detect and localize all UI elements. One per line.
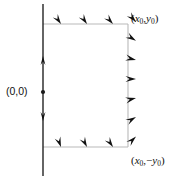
- label-top-right-corner: (x0,y0): [131, 13, 158, 24]
- paren-close: ): [155, 12, 159, 24]
- x-subscript: 0: [140, 159, 144, 168]
- label-origin: (0,0): [6, 86, 28, 97]
- flow-arrow-right-2: [125, 55, 137, 63]
- figure-canvas: (x0,y0) (x0,−y0) (0,0): [0, 0, 184, 179]
- x-variable: x: [135, 154, 140, 166]
- y-subscript: 0: [151, 17, 155, 26]
- origin-dot: [41, 90, 45, 94]
- flow-arrow-right-3: [126, 76, 137, 82]
- vector-field-svg: [0, 0, 184, 179]
- x-subscript: 0: [140, 17, 144, 26]
- flow-arrow-bottom-0: [55, 137, 64, 148]
- y-subscript: 0: [157, 159, 161, 168]
- flow-arrow-right-1: [126, 33, 138, 44]
- rectangle-boundary: [43, 24, 128, 147]
- label-bottom-right-corner: (x0,−y0): [131, 155, 165, 166]
- x-variable: x: [135, 12, 140, 24]
- flow-arrow-right-4: [125, 95, 137, 103]
- right-edge-flow-arrows: [125, 12, 138, 146]
- paren-close: ): [161, 154, 165, 166]
- origin-point-marker: [41, 90, 45, 94]
- flow-arrow-right-5: [125, 114, 137, 124]
